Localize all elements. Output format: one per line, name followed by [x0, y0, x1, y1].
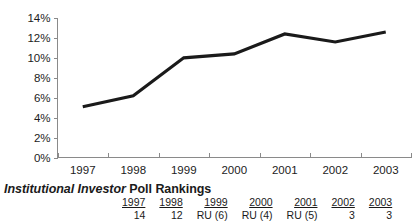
y-tick-label: 2% — [34, 132, 51, 144]
ranking-year-cell: 1998 — [145, 196, 182, 208]
ranking-value-cell: 3 — [355, 208, 392, 221]
ranking-year-cell: 2001 — [273, 196, 318, 208]
x-tick-label: 1998 — [120, 164, 146, 176]
x-tick-label: 1997 — [70, 164, 96, 176]
y-tick-label: 10% — [27, 52, 50, 64]
ranking-value-cell: RU (6) — [183, 208, 228, 221]
y-axis-tick-labels: 0%2%4%6%8%10%12%14% — [27, 12, 50, 164]
y-tick-label: 6% — [34, 92, 51, 104]
x-tick-label: 2002 — [322, 164, 348, 176]
x-tick-label: 2003 — [373, 164, 399, 176]
rankings-table: 1997199819992000200120022003 1412RU (6)R… — [108, 196, 392, 221]
y-tick-label: 14% — [27, 12, 50, 24]
data-series-line — [83, 32, 386, 107]
ranking-year-cell: 2000 — [228, 196, 273, 208]
ranking-year-cell: 1999 — [183, 196, 228, 208]
x-axis-tick-labels: 1997199819992000200120022003 — [70, 164, 399, 176]
rankings-title-suffix: Poll Rankings — [126, 182, 211, 196]
rankings-value-row: 1412RU (6)RU (4)RU (5)33 — [108, 208, 392, 221]
x-tick-label: 2000 — [221, 164, 247, 176]
ranking-value-cell: RU (4) — [228, 208, 273, 221]
line-chart-figure: 0%2%4%6%8%10%12%14% 19971998199920002001… — [0, 0, 417, 178]
x-tick-label: 1999 — [171, 164, 197, 176]
ranking-value-cell: 14 — [108, 208, 145, 221]
chart-canvas: 0%2%4%6%8%10%12%14% 19971998199920002001… — [0, 0, 417, 178]
x-tick-label: 2001 — [272, 164, 298, 176]
ranking-value-cell: 3 — [317, 208, 354, 221]
y-axis-tick-marks — [54, 19, 58, 159]
y-tick-label: 12% — [27, 32, 50, 44]
ranking-value-cell: RU (5) — [273, 208, 318, 221]
x-axis-tick-marks — [59, 153, 412, 158]
ranking-year-cell: 2003 — [355, 196, 392, 208]
y-tick-label: 8% — [34, 72, 51, 84]
rankings-section: Institutional Investor Poll Rankings 199… — [0, 178, 417, 221]
rankings-title: Institutional Investor Poll Rankings — [4, 182, 211, 196]
rankings-year-row: 1997199819992000200120022003 — [108, 196, 392, 208]
ranking-year-cell: 1997 — [108, 196, 145, 208]
y-tick-label: 0% — [34, 152, 51, 164]
y-tick-label: 4% — [34, 112, 51, 124]
ranking-value-cell: 12 — [145, 208, 182, 221]
publication-name: Institutional Investor — [4, 182, 126, 196]
ranking-year-cell: 2002 — [317, 196, 354, 208]
